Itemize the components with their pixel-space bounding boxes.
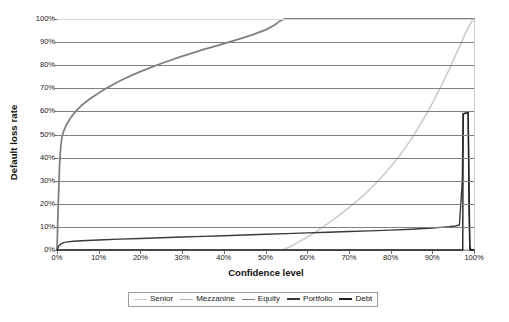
legend-label: Mezzanine — [196, 295, 235, 303]
x-axis-title: Confidence level — [57, 267, 475, 278]
x-tick-label: 90% — [412, 254, 452, 262]
y-tick-label: 40% — [29, 154, 55, 162]
y-tick-mark — [54, 19, 57, 20]
legend-entry-debt[interactable]: Debt — [339, 295, 372, 303]
x-tick-mark — [57, 251, 58, 254]
gridline-horizontal — [57, 111, 474, 112]
legend-entry-portfolio[interactable]: Portfolio — [287, 295, 332, 303]
legend-label: Equity — [258, 295, 280, 303]
y-tick-mark — [54, 135, 57, 136]
legend-swatch-icon — [180, 299, 193, 300]
y-tick-mark — [54, 111, 57, 112]
x-tick-label: 0% — [37, 254, 77, 262]
legend-label: Debt — [355, 295, 372, 303]
y-tick-label: 100% — [29, 15, 55, 23]
gridline-horizontal — [57, 227, 474, 228]
gridline-horizontal — [57, 19, 474, 20]
legend-label: Portfolio — [303, 295, 332, 303]
x-tick-label: 50% — [246, 254, 286, 262]
y-tick-label: 20% — [29, 200, 55, 208]
x-tick-mark — [307, 251, 308, 254]
x-tick-mark — [140, 251, 141, 254]
plot-area — [57, 19, 474, 250]
legend-entry-equity[interactable]: Equity — [242, 295, 280, 303]
x-tick-label: 30% — [162, 254, 202, 262]
x-tick-mark — [432, 251, 433, 254]
x-tick-mark — [391, 251, 392, 254]
y-tick-mark — [54, 42, 57, 43]
y-tick-mark — [54, 88, 57, 89]
legend-swatch-icon — [134, 299, 147, 300]
y-axis-tick-labels: 0%10%20%30%40%50%60%70%80%90%100% — [25, 0, 55, 322]
y-tick-mark — [54, 65, 57, 66]
legend-entry-mezzanine[interactable]: Mezzanine — [180, 295, 235, 303]
gridline-horizontal — [57, 181, 474, 182]
x-tick-mark — [182, 251, 183, 254]
chart-legend: SeniorMezzanineEquityPortfolioDebt — [128, 292, 378, 307]
y-axis-title: Default loss rate — [2, 55, 26, 230]
x-tick-label: 10% — [79, 254, 119, 262]
gridline-horizontal — [57, 88, 474, 89]
plot-border-right — [474, 19, 475, 251]
y-tick-label: 10% — [29, 223, 55, 231]
legend-entry-senior[interactable]: Senior — [134, 295, 173, 303]
y-tick-label: 70% — [29, 85, 55, 93]
y-tick-mark — [54, 227, 57, 228]
x-tick-label: 20% — [120, 254, 160, 262]
y-tick-mark — [54, 158, 57, 159]
y-tick-label: 30% — [29, 177, 55, 185]
x-axis-tick-labels: 0%10%20%30%40%50%60%70%80%90%100% — [0, 254, 509, 268]
y-tick-label: 80% — [29, 61, 55, 69]
legend-swatch-icon — [242, 299, 255, 300]
y-tick-mark — [54, 204, 57, 205]
gridline-horizontal — [57, 158, 474, 159]
y-tick-mark — [54, 181, 57, 182]
gridline-horizontal — [57, 65, 474, 66]
y-tick-label: 60% — [29, 108, 55, 116]
chart-container: Default loss rate 0%10%20%30%40%50%60%70… — [0, 0, 509, 322]
y-tick-label: 90% — [29, 38, 55, 46]
x-tick-label: 40% — [204, 254, 244, 262]
legend-label: Senior — [150, 295, 173, 303]
x-tick-mark — [349, 251, 350, 254]
gridline-horizontal — [57, 135, 474, 136]
x-tick-mark — [224, 251, 225, 254]
legend-swatch-icon — [287, 298, 300, 300]
y-axis-title-label: Default loss rate — [9, 105, 20, 181]
x-tick-label: 60% — [287, 254, 327, 262]
y-tick-label: 50% — [29, 131, 55, 139]
legend-swatch-icon — [339, 298, 352, 300]
x-tick-label: 80% — [371, 254, 411, 262]
x-tick-mark — [99, 251, 100, 254]
x-tick-label: 100% — [454, 254, 494, 262]
gridline-horizontal — [57, 204, 474, 205]
x-tick-label: 70% — [329, 254, 369, 262]
x-tick-mark — [266, 251, 267, 254]
gridline-horizontal — [57, 42, 474, 43]
x-tick-mark — [474, 251, 475, 254]
